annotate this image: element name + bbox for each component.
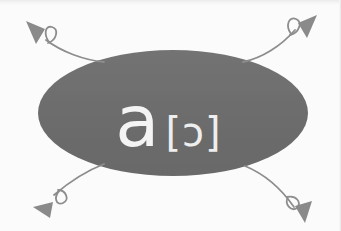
grapheme-phoneme-ellipse [38, 50, 308, 176]
arrow-bottom-left-loop [56, 190, 67, 204]
arrow-top-left-head [26, 21, 45, 44]
diagram-svg [0, 0, 341, 231]
arrow-top-right-head [298, 15, 317, 38]
figure-canvas: a [ɔ] [0, 0, 341, 231]
arrow-bottom-right [245, 166, 312, 223]
arrow-bottom-left-head [33, 202, 53, 218]
arrow-bottom-right-head [295, 201, 312, 223]
arrow-top-right [243, 15, 317, 62]
arrow-top-left-stem [46, 40, 104, 62]
arrow-top-left-loop [46, 27, 57, 43]
arrow-bottom-left [33, 164, 104, 218]
arrow-top-right-stem [243, 30, 295, 62]
arrow-top-left [26, 21, 104, 62]
